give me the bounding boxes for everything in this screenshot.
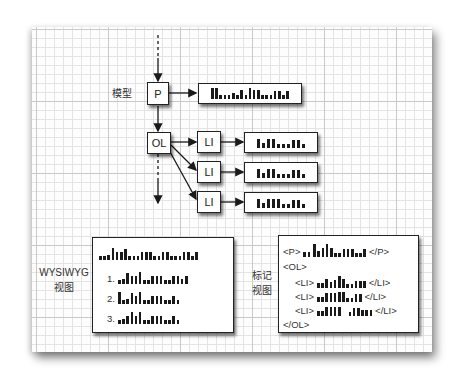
p-open-tag: <P> xyxy=(283,246,300,257)
list-number: 3. xyxy=(107,313,115,324)
ol-open-tag: <OL> xyxy=(283,261,307,272)
li-open-tag: <LI> xyxy=(295,305,314,316)
li-content-box-2 xyxy=(244,162,318,183)
wysiwyg-label-line1: WYSIWYG xyxy=(38,265,90,280)
li-node-2: LI xyxy=(197,161,221,183)
wysiwyg-list-item-3: 3. xyxy=(107,312,179,324)
markup-li-line-1: <LI> </LI> xyxy=(295,276,390,288)
li-node-3: LI xyxy=(197,191,221,213)
markup-ol-close-line: </OL> xyxy=(283,319,309,330)
paragraph-content-box xyxy=(198,83,302,104)
li-open-tag: <LI> xyxy=(295,277,314,288)
text-placeholder-bars xyxy=(211,88,289,99)
li-node-label: LI xyxy=(204,196,213,208)
model-label: 模型 xyxy=(112,86,132,101)
li-close-tag: </LI> xyxy=(375,305,397,316)
li-node-1: LI xyxy=(197,131,221,153)
wysiwyg-label-line2: 视图 xyxy=(38,280,90,295)
text-placeholder-bars xyxy=(257,197,304,208)
ol-close-tag: </OL> xyxy=(283,319,309,330)
markup-view-box: <P> </P> <OL> <LI> </LI> <LI> </LI> <LI>… xyxy=(278,235,419,333)
li-content-box-3 xyxy=(244,192,318,213)
li-node-label: LI xyxy=(204,166,213,178)
li-node-label: LI xyxy=(204,136,213,148)
ol-node: OL xyxy=(147,132,171,154)
text-placeholder-bars xyxy=(257,137,304,148)
li-close-tag: </LI> xyxy=(369,277,391,288)
markup-label-line2: 视图 xyxy=(249,283,275,298)
wysiwyg-list-item-2: 2. xyxy=(107,292,179,304)
markup-ol-open-line: <OL> xyxy=(283,261,307,272)
p-node-label: P xyxy=(154,88,161,100)
markup-label-line1: 标记 xyxy=(249,268,275,283)
markup-li-line-3: <LI> </LI> xyxy=(295,304,397,316)
text-placeholder-bars xyxy=(257,167,304,178)
li-content-box-1 xyxy=(244,132,318,153)
list-number: 1. xyxy=(107,273,115,284)
markup-li-line-2: <LI> </LI> xyxy=(295,290,386,302)
p-close-tag: </P> xyxy=(369,246,389,257)
wysiwyg-view-box: 1. 2. 3. xyxy=(92,237,234,333)
markup-p-line: <P> </P> xyxy=(283,244,389,257)
wysiwyg-list-item-1: 1. xyxy=(107,272,188,284)
wysiwyg-view-label: WYSIWYG 视图 xyxy=(38,265,90,295)
markup-view-label: 标记 视图 xyxy=(249,268,275,298)
wysiwyg-paragraph-row xyxy=(99,248,198,260)
ol-node-label: OL xyxy=(152,137,167,149)
li-open-tag: <LI> xyxy=(295,291,314,302)
p-node: P xyxy=(147,82,169,105)
li-close-tag: </LI> xyxy=(365,291,387,302)
list-number: 2. xyxy=(107,293,115,304)
